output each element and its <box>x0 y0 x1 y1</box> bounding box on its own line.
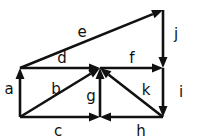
edge-label-j: j <box>174 27 178 42</box>
edge-label-k: k <box>142 83 151 98</box>
graph-canvas <box>0 0 197 139</box>
arrow-head-h <box>100 113 111 122</box>
edge-line-k <box>109 75 163 117</box>
edge-label-a: a <box>4 82 13 97</box>
edge-label-d: d <box>57 51 67 66</box>
arrow-head-e <box>151 10 163 18</box>
edge-label-h: h <box>136 124 146 139</box>
edge-label-i: i <box>179 85 183 100</box>
arrow-head-f <box>152 64 163 73</box>
edge-k <box>100 68 163 117</box>
edge-h <box>100 113 163 122</box>
edge-g <box>96 68 105 117</box>
edge-e <box>20 10 163 68</box>
edge-j <box>159 10 168 68</box>
edge-i <box>159 68 168 117</box>
arrow-head-j <box>159 57 168 68</box>
edge-c <box>20 113 100 122</box>
edge-label-e: e <box>77 25 86 40</box>
edge-label-g: g <box>86 89 96 104</box>
graph-diagram: abcdefghijk <box>0 0 197 139</box>
arrow-head-a <box>16 68 25 79</box>
edge-label-b: b <box>51 82 61 97</box>
edge-label-f: f <box>129 51 134 66</box>
edge-a <box>16 68 25 117</box>
arrow-head-c <box>89 113 100 122</box>
edge-label-c: c <box>54 124 62 139</box>
